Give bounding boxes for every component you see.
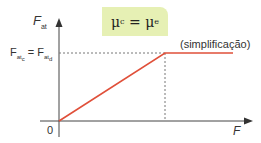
mu-e-sub: e: [154, 17, 159, 26]
mu-c: μ: [111, 14, 120, 30]
mu-e: μ: [145, 14, 154, 30]
formula-box: μc = μe: [102, 7, 168, 36]
y-axis-label: Fat: [33, 13, 47, 30]
x-axis-arrow-icon: [244, 118, 253, 125]
level-label: Fatc = Fatd: [10, 46, 52, 62]
formula-equals: =: [125, 14, 146, 30]
y-axis-arrow-icon: [56, 18, 63, 27]
x-axis-label: F: [233, 124, 240, 138]
simplification-note: (simplificação): [180, 38, 250, 50]
friction-curve: [59, 53, 233, 121]
origin-label: 0: [47, 124, 53, 136]
